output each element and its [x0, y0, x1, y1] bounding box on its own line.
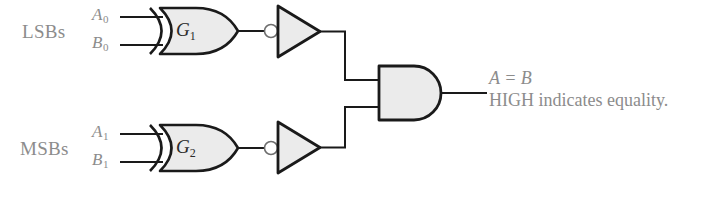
output-equation: A = B: [489, 68, 532, 89]
input-label-b0-name: B: [92, 33, 102, 52]
gate-label-g2: G2: [176, 136, 196, 158]
input-label-b1: B1: [92, 150, 108, 170]
gate-label-g1-index: 1: [190, 29, 196, 43]
input-label-a0: A0: [92, 5, 108, 25]
logic-diagram: LSBs MSBs A0 B0 A1 B1 G1 G2 A = B HIGH i…: [0, 0, 707, 197]
inversion-bubble-inv1: [265, 25, 278, 38]
xor-gate-g1-arc: [150, 8, 162, 54]
input-label-a1-name: A: [92, 122, 102, 141]
input-label-a1-index: 1: [103, 130, 109, 142]
output-note: HIGH indicates equality.: [489, 90, 668, 111]
input-label-b1-index: 1: [103, 158, 109, 170]
gate-label-g1-name: G: [176, 19, 190, 40]
inversion-bubble-inv2: [265, 142, 278, 155]
xor-gate-g2-arc: [150, 125, 162, 171]
input-label-a1: A1: [92, 122, 108, 142]
inverter-gate-inv1-body: [278, 6, 320, 57]
xor-gate-g1-body: [160, 8, 238, 54]
input-label-b1-name: B: [92, 150, 102, 169]
input-label-a0-name: A: [92, 5, 102, 24]
gate-label-g2-name: G: [176, 136, 190, 157]
gate-label-g2-index: 2: [190, 146, 196, 160]
group-label-lsbs: LSBs: [22, 21, 65, 43]
inverter-gate-inv2-body: [278, 122, 320, 173]
gate-label-g1: G1: [176, 19, 196, 41]
group-label-msbs: MSBs: [20, 138, 69, 160]
wire-inv1-to-and: [320, 32, 380, 81]
xor-gate-g2-body: [160, 125, 238, 171]
input-label-b0: B0: [92, 33, 108, 53]
wire-inv2-to-and: [320, 107, 380, 148]
and-gate-body: [379, 66, 441, 120]
input-label-b0-index: 0: [103, 41, 109, 53]
input-label-a0-index: 0: [103, 13, 109, 25]
